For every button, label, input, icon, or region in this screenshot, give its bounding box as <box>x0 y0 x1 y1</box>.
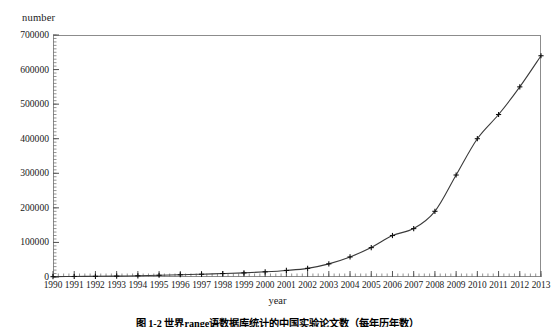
x-tick-label: 2013 <box>524 281 555 290</box>
figure-root: number 010000020000030000040000050000060… <box>0 0 555 327</box>
figure-caption: 图 1-2 世界range语数据库统计的中国实验论文数（每年历年数） <box>0 315 555 327</box>
x-axis-label: year <box>0 295 555 306</box>
x-axis-tick-labels: 1990199119921993199419951996199719981999… <box>0 0 555 327</box>
